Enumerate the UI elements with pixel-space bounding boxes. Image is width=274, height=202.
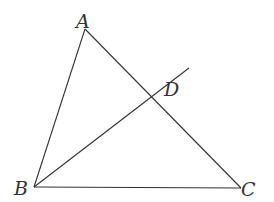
label-b: B: [13, 177, 28, 199]
segment-ac: [85, 29, 241, 188]
label-a: A: [74, 10, 90, 32]
triangle-diagram: A D B C: [0, 0, 274, 202]
label-c: C: [241, 178, 256, 200]
segment-bc: [34, 187, 241, 188]
segment-ab: [34, 29, 85, 187]
label-d: D: [163, 78, 179, 100]
